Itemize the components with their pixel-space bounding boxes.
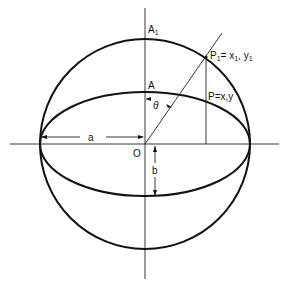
point-p1 — [204, 55, 207, 58]
label-p1: P1= x1, y1 — [210, 50, 253, 62]
label-a1: A1 — [148, 24, 159, 36]
label-a: A — [148, 80, 155, 91]
label-a-dim: a — [88, 132, 94, 143]
label-p: P=x,y — [208, 91, 233, 102]
label-theta: θ — [153, 100, 159, 111]
ellipse-diagram: A1 A O a b θ P1= x1, y1 P=x,y — [0, 0, 285, 284]
label-b-dim: b — [152, 165, 158, 176]
label-o: O — [133, 148, 141, 159]
